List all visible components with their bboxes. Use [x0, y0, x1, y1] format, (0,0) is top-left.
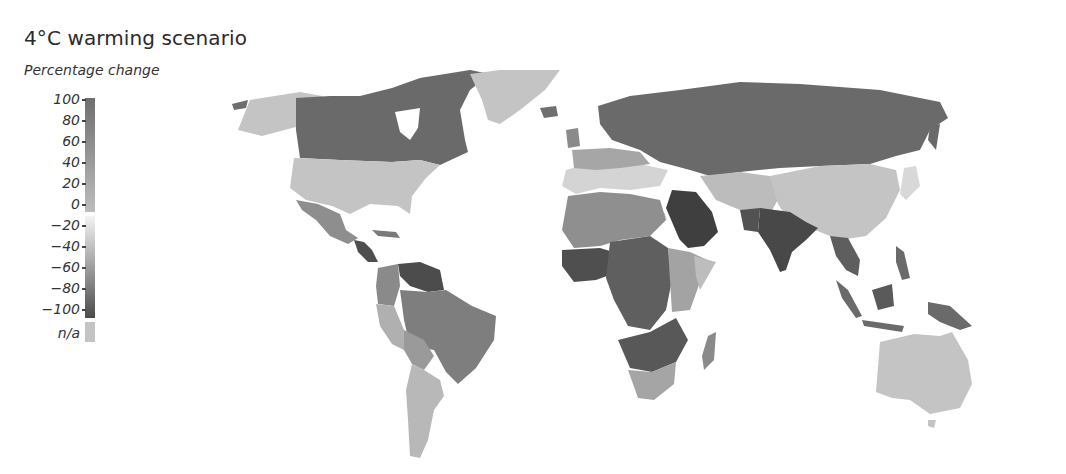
tick-mark: [82, 204, 86, 206]
legend-tick: 0: [71, 197, 80, 211]
tick-mark: [82, 183, 86, 185]
region-central-asia: [700, 172, 780, 214]
region-russia: [598, 82, 948, 176]
tick-mark: [82, 267, 86, 269]
color-legend: 100 80 60 40 20 0 −20 −40 −60 −80 −100 n…: [24, 92, 104, 352]
region-philippines: [896, 246, 910, 280]
legend-tick: −80: [50, 281, 80, 295]
legend-tick: 100: [53, 92, 80, 106]
region-borneo: [872, 284, 894, 310]
region-saudi-arabia: [664, 190, 718, 248]
region-central-america: [354, 240, 378, 262]
world-map: [215, 60, 1065, 470]
legend-tick: −60: [50, 260, 80, 274]
legend-positive-gradient: [85, 98, 95, 212]
map-title: 4°C warming scenario: [24, 26, 247, 50]
region-aleutian: [232, 100, 248, 110]
tick-mark: [82, 120, 86, 122]
legend-title: Percentage change: [24, 62, 160, 78]
region-kamchatka: [928, 124, 940, 150]
region-pakistan: [740, 208, 760, 232]
region-australia: [876, 332, 972, 414]
tick-mark: [82, 225, 86, 227]
legend-negative-gradient: [85, 216, 95, 318]
region-uk: [566, 128, 580, 148]
tick-mark: [82, 141, 86, 143]
region-madagascar: [702, 332, 716, 370]
legend-tick: 80: [62, 113, 80, 127]
region-sumatra: [836, 280, 862, 318]
legend-tick: −100: [42, 302, 80, 316]
region-canada: [296, 70, 490, 165]
tick-mark: [82, 288, 86, 290]
region-java: [862, 320, 904, 332]
region-southern-cone: [406, 364, 444, 458]
region-colombia: [376, 264, 400, 306]
legend-na-label: n/a: [58, 325, 80, 341]
legend-tick: 40: [62, 155, 80, 169]
legend-tick: −20: [50, 218, 80, 232]
tick-mark: [82, 99, 86, 101]
tick-mark: [82, 162, 86, 164]
tick-mark: [82, 309, 86, 311]
region-central-africa: [606, 236, 672, 330]
tick-mark: [82, 246, 86, 248]
region-venezuela: [398, 262, 444, 292]
region-japan: [900, 166, 920, 200]
region-new-guinea: [928, 302, 972, 330]
legend-tick: 20: [62, 176, 80, 190]
legend-tick: −40: [50, 239, 80, 253]
region-peru: [376, 304, 404, 350]
legend-na-swatch: [85, 322, 95, 342]
legend-tick: 60: [62, 134, 80, 148]
region-iceland: [540, 106, 558, 118]
region-southeast-asia: [830, 236, 860, 276]
region-caribbean: [372, 230, 400, 238]
region-tasmania: [928, 420, 936, 428]
